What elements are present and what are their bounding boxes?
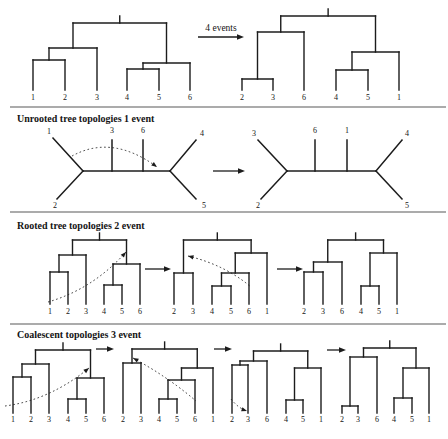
rooted-tree-3: 236451	[302, 233, 399, 316]
rooted-tree-2: 234561	[172, 233, 269, 316]
leaf-label: 5	[410, 415, 414, 424]
leaf-label: 6	[193, 415, 197, 424]
leaf-label: 4	[66, 415, 70, 424]
leaf-label: 2	[63, 93, 67, 102]
leaf-label: 1	[48, 307, 52, 316]
tree-top-left: 123456	[31, 16, 192, 102]
event-arc-unrooted	[72, 147, 157, 167]
leaf-label: 3	[95, 93, 99, 102]
transition-arrow-coalescent-1	[96, 346, 114, 352]
leaf-label: 3	[271, 93, 275, 102]
transition-arrow-rooted-2	[277, 266, 303, 272]
leaf-label: 2	[29, 415, 33, 424]
section-title-rooted: Rooted tree topologies 2 event	[17, 220, 145, 231]
leaf-label: 3	[321, 307, 325, 316]
coalescent-tree-2: 234561	[121, 342, 215, 424]
leaf-label: 3	[252, 129, 256, 138]
leaf-label: 5	[202, 201, 206, 210]
leaf-label: 4	[405, 129, 409, 138]
leaf-label: 3	[84, 307, 88, 316]
leaf-label: 6	[247, 307, 251, 316]
transition-arrow-coalescent-3	[327, 347, 346, 353]
leaf-label: 2	[340, 415, 344, 424]
leaf-label: 2	[53, 201, 57, 210]
leaf-label: 1	[265, 307, 269, 316]
leaf-label: 4	[210, 307, 214, 316]
coalescent-tree-3: 236451	[230, 344, 323, 424]
transition-arrow-top	[198, 34, 244, 40]
transition-arrow-unrooted	[213, 168, 245, 174]
leaf-label: 5	[301, 415, 305, 424]
section-title-unrooted: Unrooted tree topologies 1 event	[17, 113, 155, 124]
leaf-label: 5	[175, 415, 179, 424]
leaf-label: 3	[139, 415, 143, 424]
coalescent-tree-4: 236451	[340, 341, 431, 424]
leaf-label: 4	[125, 93, 129, 102]
leaf-label: 6	[188, 93, 192, 102]
leaf-label: 2	[66, 307, 70, 316]
leaf-label: 6	[313, 126, 317, 135]
section-title-coalescent: Coalescent topologies 3 event	[17, 329, 142, 340]
leaf-label: 5	[229, 307, 233, 316]
leaf-label: 1	[397, 93, 401, 102]
event-arc-rooted-2	[188, 255, 251, 287]
leaf-label: 6	[340, 307, 344, 316]
event-arcs-layer	[5, 147, 251, 411]
leaf-label: 3	[47, 415, 51, 424]
rooted-tree-1: 123456	[48, 233, 142, 316]
leaf-label: 6	[138, 307, 142, 316]
leaf-label: 6	[141, 126, 145, 135]
unrooted-tree-right: 326145	[252, 126, 409, 210]
leaf-label: 1	[47, 127, 51, 136]
leaf-label: 1	[345, 126, 349, 135]
leaf-label: 3	[191, 307, 195, 316]
leaf-label: 4	[359, 307, 363, 316]
phylogeny-events-figure: 4 events Unrooted tree topologies 1 even…	[0, 0, 448, 439]
leaf-label: 6	[265, 415, 269, 424]
leaf-label: 1	[31, 93, 35, 102]
leaf-label: 4	[102, 307, 106, 316]
figure-canvas: 4 events Unrooted tree topologies 1 even…	[0, 0, 448, 439]
leaf-label: 1	[427, 415, 431, 424]
leaf-label: 2	[256, 201, 260, 210]
leaf-label: 6	[375, 415, 379, 424]
leaf-label: 1	[11, 415, 15, 424]
leaf-label: 5	[366, 93, 370, 102]
tree-top-right: 236451	[240, 9, 401, 102]
leaf-label: 1	[395, 307, 399, 316]
trees-layer: 1234562364511234562345612364511234562345…	[11, 9, 431, 424]
leaf-label: 5	[157, 93, 161, 102]
leaf-label: 4	[284, 415, 288, 424]
coalescent-tree-1: 123456	[11, 343, 106, 424]
leaf-label: 5	[377, 307, 381, 316]
leaf-label: 2	[230, 415, 234, 424]
leaf-label: 3	[246, 415, 250, 424]
leaf-label: 1	[319, 415, 323, 424]
event-arc-coalescent-3	[231, 399, 247, 411]
leaf-label: 5	[84, 415, 88, 424]
transition-arrow-rooted-1	[145, 266, 171, 272]
leaf-label: 3	[356, 415, 360, 424]
leaf-label: 3	[110, 126, 114, 135]
events-count-label: 4 events	[205, 23, 237, 33]
leaf-label: 5	[120, 307, 124, 316]
leaf-label: 4	[157, 415, 161, 424]
transition-arrows-layer	[96, 34, 346, 353]
leaf-label: 1	[211, 415, 215, 424]
leaf-label: 2	[302, 307, 306, 316]
leaf-label: 4	[392, 415, 396, 424]
leaf-label: 2	[172, 307, 176, 316]
transition-arrow-coalescent-2	[214, 346, 232, 352]
leaf-label: 6	[102, 415, 106, 424]
leaf-label: 2	[121, 415, 125, 424]
leaf-label: 6	[302, 93, 306, 102]
leaf-label: 4	[200, 129, 204, 138]
leaf-label: 5	[405, 201, 409, 210]
leaf-label: 4	[334, 93, 338, 102]
leaf-label: 2	[240, 93, 244, 102]
unrooted-tree-left: 123645	[47, 126, 206, 210]
